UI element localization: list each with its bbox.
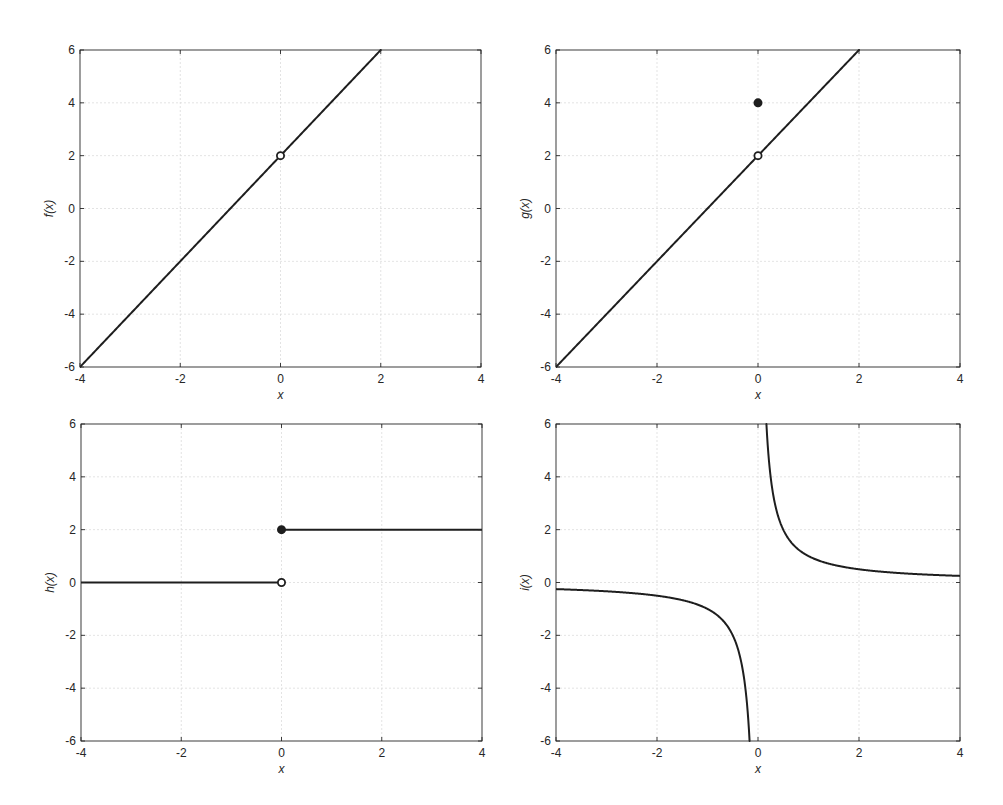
y-tick-label: 6 — [68, 43, 75, 57]
figure-background — [0, 0, 1003, 805]
x-axis-label: x — [754, 762, 762, 776]
y-tick-label: 0 — [544, 202, 551, 216]
y-tick-label: 2 — [544, 523, 551, 537]
y-tick-label: -2 — [64, 254, 75, 268]
y-tick-label: 4 — [68, 96, 75, 110]
x-tick-label: 2 — [856, 746, 863, 760]
y-tick-label: -4 — [65, 681, 76, 695]
x-axis-label: x — [277, 388, 285, 402]
y-tick-label: 4 — [69, 470, 76, 484]
x-tick-label: -2 — [175, 372, 186, 386]
x-tick-label: 2 — [856, 372, 863, 386]
x-tick-label: 4 — [479, 746, 486, 760]
y-tick-label: 0 — [69, 576, 76, 590]
x-tick-label: -2 — [652, 746, 663, 760]
x-tick-label: -2 — [176, 746, 187, 760]
x-tick-label: -4 — [551, 746, 562, 760]
y-tick-label: -6 — [65, 734, 76, 748]
figure: -4-2024-6-4-20246xf(x) -4-2024-6-4-20246… — [0, 0, 1003, 805]
y-tick-label: 4 — [544, 470, 551, 484]
y-tick-label: 0 — [68, 202, 75, 216]
y-axis-label: i(x) — [518, 574, 532, 591]
filled-point-marker — [754, 99, 761, 106]
y-tick-label: 4 — [544, 96, 551, 110]
y-tick-label: -2 — [540, 254, 551, 268]
x-tick-label: 2 — [378, 746, 385, 760]
y-tick-label: -4 — [64, 307, 75, 321]
x-tick-label: 0 — [755, 372, 762, 386]
x-tick-label: -4 — [75, 372, 86, 386]
x-tick-label: 4 — [957, 746, 964, 760]
y-tick-label: 6 — [69, 417, 76, 431]
y-axis-label: f(x) — [42, 200, 56, 217]
open-point-marker — [278, 579, 285, 586]
y-axis-label: h(x) — [43, 572, 57, 593]
y-tick-label: -6 — [540, 360, 551, 374]
x-tick-label: -2 — [652, 372, 663, 386]
y-tick-label: -4 — [540, 681, 551, 695]
y-axis-label: g(x) — [518, 198, 532, 219]
y-tick-label: 6 — [544, 417, 551, 431]
x-tick-label: 4 — [478, 372, 485, 386]
y-tick-label: -6 — [540, 734, 551, 748]
x-axis-label: x — [278, 762, 286, 776]
y-tick-label: -6 — [64, 360, 75, 374]
x-tick-label: -4 — [551, 372, 562, 386]
y-tick-label: 6 — [544, 43, 551, 57]
x-tick-label: -4 — [76, 746, 87, 760]
y-tick-label: 2 — [68, 149, 75, 163]
y-tick-label: -2 — [65, 628, 76, 642]
y-tick-label: -2 — [540, 628, 551, 642]
x-axis-label: x — [754, 388, 762, 402]
x-tick-label: 2 — [377, 372, 384, 386]
x-tick-label: 0 — [755, 746, 762, 760]
x-tick-label: 0 — [277, 372, 284, 386]
open-point-marker — [277, 152, 284, 159]
x-tick-label: 0 — [278, 746, 285, 760]
x-tick-label: 4 — [957, 372, 964, 386]
y-tick-label: 2 — [544, 149, 551, 163]
filled-point-marker — [278, 526, 285, 533]
y-tick-label: 0 — [544, 576, 551, 590]
y-tick-label: -4 — [540, 307, 551, 321]
y-tick-label: 2 — [69, 523, 76, 537]
open-point-marker — [754, 152, 761, 159]
